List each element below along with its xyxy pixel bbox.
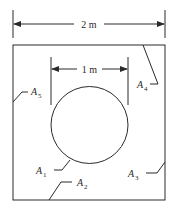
circle-diameter-label: 1 m	[82, 64, 98, 75]
leader-line	[146, 162, 165, 173]
label-subscript: 5	[38, 92, 42, 100]
label-letter: A	[35, 165, 43, 176]
label-letter: A	[136, 79, 144, 90]
label-subscript: 3	[135, 174, 139, 182]
outer-width-dimension: 2 m	[13, 10, 165, 38]
label-a4: A 4	[136, 45, 158, 93]
outer-width-label: 2 m	[81, 19, 97, 30]
leader-line	[49, 182, 72, 200]
label-letter: A	[127, 168, 135, 179]
leader-line	[143, 45, 158, 84]
label-letter: A	[30, 86, 38, 97]
label-a1: A 1	[35, 160, 70, 179]
leader-line	[13, 92, 28, 102]
label-a2: A 2	[49, 177, 88, 200]
diagram-canvas: 2 m 1 m A 5 A 4 A 1 A 2 A 3	[0, 0, 177, 211]
label-letter: A	[76, 177, 84, 188]
label-subscript: 1	[43, 171, 47, 179]
label-a3: A 3	[127, 162, 165, 182]
label-subscript: 2	[84, 183, 88, 191]
label-subscript: 4	[144, 85, 148, 93]
label-a5: A 5	[13, 86, 42, 102]
inner-circle	[51, 87, 128, 164]
leader-line	[54, 160, 70, 170]
